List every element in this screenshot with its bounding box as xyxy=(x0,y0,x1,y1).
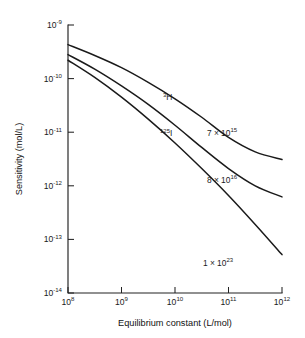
y-tick-2-exponent: -11 xyxy=(54,126,63,133)
axis-lines xyxy=(68,25,282,293)
svg-text:10-9: 10-9 xyxy=(47,18,63,30)
svg-text:108: 108 xyxy=(62,295,76,307)
x-tick-1-mantissa: 10 xyxy=(115,297,125,307)
svg-text:10-14: 10-14 xyxy=(44,286,63,298)
svg-text:1010: 1010 xyxy=(167,295,184,307)
svg-text:109: 109 xyxy=(115,295,129,307)
svg-text:1012: 1012 xyxy=(274,295,291,307)
y-tick-1-exponent: -10 xyxy=(53,72,62,79)
curve-1e23 xyxy=(68,60,282,254)
x-axis-title: Equilibrium constant (L/mol) xyxy=(118,318,232,328)
svg-text:10-10: 10-10 xyxy=(44,72,63,84)
y-tick-2-mantissa: 10 xyxy=(44,127,54,137)
x-tick-labels: 108 109 1010 1011 1012 xyxy=(62,295,291,307)
label-value-1e23: 1 × 1023 xyxy=(203,257,234,268)
svg-text:10-11: 10-11 xyxy=(44,126,63,138)
x-tick-4-exponent: 12 xyxy=(283,295,290,302)
y-tick-3-mantissa: 10 xyxy=(44,181,54,191)
svg-text:10-12: 10-12 xyxy=(44,179,63,191)
y-tick-labels: 10-9 10-10 10-11 10-12 10-13 10-14 xyxy=(44,18,63,298)
label-value-7e15: 7 × 1015 xyxy=(207,127,238,138)
x-axis-ticks xyxy=(68,287,282,293)
y-axis-ticks xyxy=(68,25,74,293)
x-tick-3-mantissa: 10 xyxy=(221,297,231,307)
x-tick-3-exponent: 11 xyxy=(230,295,237,302)
x-tick-2-mantissa: 10 xyxy=(167,297,177,307)
y-tick-4-mantissa: 10 xyxy=(44,234,54,244)
svg-text:1011: 1011 xyxy=(221,295,237,307)
y-axis-title: Sensitivity (mol/L) xyxy=(14,123,24,196)
log-log-plot: 10-9 10-10 10-11 10-12 10-13 10-14 108 1… xyxy=(0,0,305,338)
label-isotope-125i: 125I xyxy=(160,128,172,138)
chart-figure: 10-9 10-10 10-11 10-12 10-13 10-14 108 1… xyxy=(0,0,305,338)
y-tick-3-exponent: -12 xyxy=(53,179,62,186)
x-tick-2-exponent: 10 xyxy=(176,295,183,302)
label-isotope-3h: 3H xyxy=(163,92,172,102)
y-tick-1-mantissa: 10 xyxy=(44,74,54,84)
curve-125i xyxy=(68,55,282,197)
y-tick-5-exponent: -14 xyxy=(53,286,62,293)
y-tick-5-mantissa: 10 xyxy=(44,288,54,298)
x-tick-0-exponent: 8 xyxy=(71,295,75,302)
x-tick-1-exponent: 9 xyxy=(125,295,129,302)
y-tick-4-exponent: -13 xyxy=(53,233,62,240)
x-tick-0-mantissa: 10 xyxy=(62,297,72,307)
x-tick-4-mantissa: 10 xyxy=(274,297,284,307)
y-tick-0-exponent: -9 xyxy=(57,18,63,25)
svg-text:10-13: 10-13 xyxy=(44,233,63,245)
label-value-8e16: 8 × 1016 xyxy=(207,174,238,185)
y-tick-0-mantissa: 10 xyxy=(47,20,57,30)
